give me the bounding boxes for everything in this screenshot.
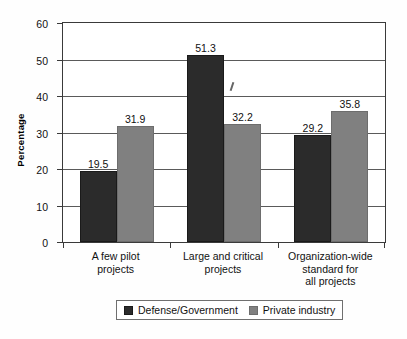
y-axis-tick: 10 [57, 206, 63, 207]
legend-label-private-industry: Private industry [263, 304, 335, 316]
x-axis-category-label-line: all projects [277, 275, 384, 288]
bar-value-label: 29.2 [303, 122, 323, 134]
bar-value-label: 19.5 [88, 158, 108, 170]
legend-entry-defense-government: Defense/Government [124, 304, 238, 316]
x-axis-tick [384, 242, 385, 248]
y-axis-tick-label: 60 [36, 18, 48, 30]
bar-private-industry: 32.2 [224, 124, 261, 242]
x-axis-category-label: Large and criticalprojects [169, 250, 276, 275]
legend-swatch-icon-private-industry [249, 306, 258, 315]
bar-defense-government: 19.5 [80, 171, 117, 242]
y-axis-tick: 20 [57, 169, 63, 170]
y-axis-tick-label: 20 [36, 164, 48, 176]
bar-private-industry: 35.8 [331, 111, 368, 242]
x-axis-tick [278, 242, 279, 248]
bar-value-label: 31.9 [125, 113, 145, 125]
legend-label-defense-government: Defense/Government [138, 304, 238, 316]
y-axis-tick-label: 10 [36, 201, 48, 213]
y-axis-title: Percentage [14, 95, 28, 185]
y-axis-tick-label: 40 [36, 91, 48, 103]
x-axis-category-label-line: A few pilot [62, 250, 169, 263]
legend-swatch-icon-defense-government [124, 306, 133, 315]
bar-value-label: 51.3 [195, 42, 215, 54]
y-axis-tick: 30 [57, 133, 63, 134]
x-axis-category-label-line: projects [169, 263, 276, 276]
plot-area: 010203040506019.531.951.332.229.235.8 [62, 22, 386, 243]
x-axis-category-label-line: Organization-wide [277, 250, 384, 263]
y-axis-tick: 50 [57, 60, 63, 61]
gridline [63, 96, 385, 97]
legend-entry-private-industry: Private industry [249, 304, 335, 316]
bar-defense-government: 29.2 [294, 135, 331, 242]
chart-legend: Defense/Government Private industry [116, 300, 343, 320]
y-axis-tick: 60 [57, 23, 63, 24]
x-axis-tick [170, 242, 171, 248]
y-axis-tick-label: 30 [36, 128, 48, 140]
x-axis-category-label-line: projects [62, 263, 169, 276]
bar-private-industry: 31.9 [117, 126, 154, 242]
y-axis-tick-label: 50 [36, 55, 48, 67]
x-axis-category-label-line: standard for [277, 263, 384, 276]
bar-value-label: 32.2 [232, 111, 252, 123]
x-axis-category-label: Organization-widestandard forall project… [277, 250, 384, 288]
x-axis-tick [63, 242, 64, 248]
bar-chart: Percentage 010203040506019.531.951.332.2… [0, 0, 407, 339]
y-axis-tick: 40 [57, 96, 63, 97]
x-axis-category-label: A few pilotprojects [62, 250, 169, 275]
y-axis-tick-label: 0 [42, 237, 48, 249]
bar-defense-government: 51.3 [187, 55, 224, 242]
bar-value-label: 35.8 [340, 98, 360, 110]
gridline [63, 60, 385, 61]
x-axis-category-label-line: Large and critical [169, 250, 276, 263]
